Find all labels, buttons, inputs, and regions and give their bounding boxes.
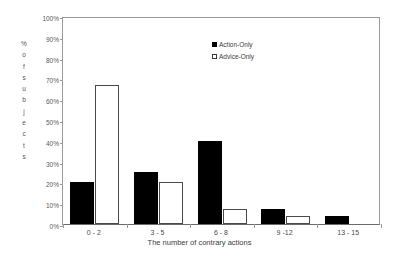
y-axis-title-char: s bbox=[17, 72, 31, 83]
x-axis-tick-mark bbox=[317, 224, 318, 228]
bar-chart-figure: %ofsubjects 0%10%20%30%40%50%60%70%80%90… bbox=[0, 0, 399, 258]
bar-action-only bbox=[134, 172, 158, 224]
y-axis-title-char: f bbox=[17, 61, 31, 72]
x-axis-tick-label: 13 - 15 bbox=[337, 229, 359, 236]
x-axis-tick-mark bbox=[63, 224, 64, 228]
y-axis-tick-mark bbox=[60, 143, 63, 144]
x-axis-tick-label: 6 - 8 bbox=[214, 229, 228, 236]
x-axis-tick-label: 0 - 2 bbox=[87, 229, 101, 236]
bar-action-only bbox=[325, 216, 349, 224]
bar-advice-only bbox=[286, 216, 310, 224]
bar-group bbox=[134, 18, 183, 224]
x-axis-tick-mark bbox=[381, 224, 382, 228]
bar-action-only bbox=[70, 182, 94, 224]
y-axis-tick-mark bbox=[60, 80, 63, 81]
y-axis-tick-mark bbox=[60, 60, 63, 61]
bar-group bbox=[325, 18, 374, 224]
y-axis-tick-mark bbox=[60, 205, 63, 206]
y-axis-title-char: e bbox=[17, 117, 31, 128]
bar-action-only bbox=[198, 141, 222, 224]
legend-item: Advice-Only bbox=[212, 53, 254, 60]
y-axis-title-char: u bbox=[17, 83, 31, 94]
y-axis-tick-mark bbox=[60, 122, 63, 123]
bar-action-only bbox=[261, 209, 285, 224]
bar-group bbox=[261, 18, 310, 224]
x-axis-tick-label: 3 - 5 bbox=[150, 229, 164, 236]
y-axis-tick-mark bbox=[60, 164, 63, 165]
bar-advice-only bbox=[223, 209, 247, 224]
legend-label: Action-Only bbox=[219, 41, 253, 48]
y-axis-title-char: t bbox=[17, 140, 31, 151]
x-axis-tick-mark bbox=[127, 224, 128, 228]
legend-label: Advice-Only bbox=[219, 53, 254, 60]
y-axis-tick-mark bbox=[60, 101, 63, 102]
legend-swatch-action-only bbox=[212, 42, 217, 47]
x-axis-tick-mark bbox=[254, 224, 255, 228]
chart-legend: Action-OnlyAdvice-Only bbox=[212, 41, 254, 65]
y-axis-title: %ofsubjects bbox=[17, 38, 31, 162]
bar-advice-only bbox=[95, 85, 119, 224]
legend-item: Action-Only bbox=[212, 41, 254, 48]
y-axis-tick-mark bbox=[60, 184, 63, 185]
y-axis-title-char: s bbox=[17, 151, 31, 162]
x-axis-title: The number of contrary actions bbox=[0, 238, 399, 247]
x-axis-tick-mark bbox=[190, 224, 191, 228]
x-axis-tick-label: 9 -12 bbox=[277, 229, 293, 236]
y-axis-title-char: c bbox=[17, 128, 31, 139]
y-axis-title-char: o bbox=[17, 49, 31, 60]
y-axis-tick-mark bbox=[60, 39, 63, 40]
y-axis-tick-mark bbox=[60, 18, 63, 19]
bar-advice-only bbox=[159, 182, 183, 224]
bar-group bbox=[70, 18, 119, 224]
y-axis-title-char: j bbox=[17, 106, 31, 117]
y-axis-title-char: b bbox=[17, 94, 31, 105]
y-axis-title-char: % bbox=[17, 38, 31, 49]
legend-swatch-advice-only bbox=[212, 54, 217, 59]
